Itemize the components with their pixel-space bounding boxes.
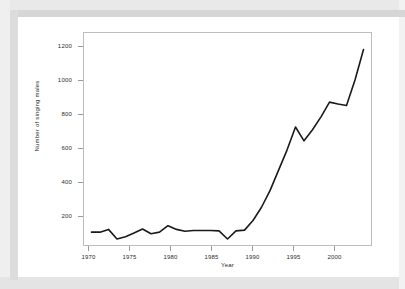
x-tick-label-1970: 1970	[74, 254, 104, 260]
y-tick-label-800: 800	[46, 111, 72, 117]
document-page: 1200 1000 800 600 400 200 1970 1975 1980…	[18, 17, 397, 275]
y-tick-label-1000: 1000	[46, 77, 72, 83]
line-chart-figure: 1200 1000 800 600 400 200 1970 1975 1980…	[18, 17, 397, 275]
x-axis-title: Year	[83, 262, 372, 268]
x-tick-label-1985: 1985	[197, 254, 227, 260]
y-tick-label-600: 600	[46, 145, 72, 151]
y-tick-label-1200: 1200	[46, 43, 72, 49]
scan-border-bottom	[0, 277, 405, 289]
page-shadow-top	[10, 10, 405, 17]
plot-canvas	[18, 17, 397, 275]
x-tick-label-2000: 2000	[320, 254, 350, 260]
scan-border-right	[399, 0, 405, 289]
screenshot-root: 1200 1000 800 600 400 200 1970 1975 1980…	[0, 0, 405, 289]
y-axis-ticks	[78, 47, 83, 217]
x-tick-label-1980: 1980	[156, 254, 186, 260]
data-series-line	[92, 50, 364, 239]
page-shadow-left	[10, 10, 18, 280]
scan-border-left	[0, 0, 10, 289]
x-tick-label-1995: 1995	[279, 254, 309, 260]
scan-border-top	[0, 0, 405, 10]
y-axis-title: Number of singing males	[34, 68, 40, 164]
x-tick-label-1975: 1975	[115, 254, 145, 260]
y-tick-label-200: 200	[46, 213, 72, 219]
y-tick-label-400: 400	[46, 179, 72, 185]
x-tick-label-1990: 1990	[238, 254, 268, 260]
x-axis-ticks	[89, 246, 335, 251]
